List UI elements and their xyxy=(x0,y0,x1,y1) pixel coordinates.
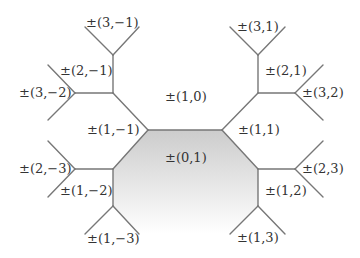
farey-tree-diagram: ±(3,−1) ±(2,−1) ±(3,−2) ±(1,0) ±(1,−1) ±… xyxy=(0,0,360,258)
label-0-1: ±(0,1) xyxy=(165,150,207,165)
label-1-2: ±(1,2) xyxy=(265,183,307,198)
edge xyxy=(113,27,139,55)
label-3-2: ±(3,2) xyxy=(302,85,344,100)
label-3-1: ±(3,1) xyxy=(237,19,279,34)
edge xyxy=(85,206,113,234)
label-1-m2: ±(1,−2) xyxy=(60,183,113,198)
label-2-3: ±(2,3) xyxy=(302,161,344,176)
label-3-m2: ±(3,−2) xyxy=(19,85,72,100)
label-2-1: ±(2,1) xyxy=(265,63,307,78)
edge xyxy=(85,27,113,55)
label-1-m3: ±(1,−3) xyxy=(87,231,140,246)
label-1-0: ±(1,0) xyxy=(165,89,207,104)
label-2-m1: ±(2,−1) xyxy=(60,63,113,78)
label-1-1: ±(1,1) xyxy=(238,122,280,137)
label-3-m1: ±(3,−1) xyxy=(86,15,139,30)
label-2-m3: ±(2,−3) xyxy=(19,161,72,176)
label-1-3: ±(1,3) xyxy=(237,230,279,245)
label-1-m1: ±(1,−1) xyxy=(87,122,140,137)
